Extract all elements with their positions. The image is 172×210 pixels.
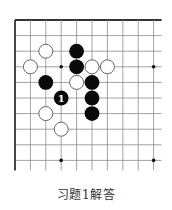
black-stone (38, 75, 53, 90)
white-stone (100, 60, 114, 74)
black-stone (69, 59, 84, 74)
black-stone (85, 106, 100, 121)
star-point (152, 159, 156, 163)
black-stone (85, 91, 100, 106)
go-board: 1 (0, 0, 172, 180)
star-point (59, 159, 63, 163)
black-stone: 1 (54, 91, 69, 106)
diagram-caption: 习题1解答 (0, 185, 172, 202)
star-point (152, 65, 156, 69)
move-number-label: 1 (58, 93, 65, 104)
stones: 1 (23, 44, 114, 136)
white-stone (39, 107, 53, 121)
black-stone (69, 44, 84, 59)
white-stone (54, 122, 68, 136)
white-stone (85, 60, 99, 74)
star-point (59, 65, 63, 69)
white-stone (70, 75, 84, 89)
white-stone (39, 44, 53, 58)
white-stone (23, 60, 37, 74)
black-stone (85, 75, 100, 90)
